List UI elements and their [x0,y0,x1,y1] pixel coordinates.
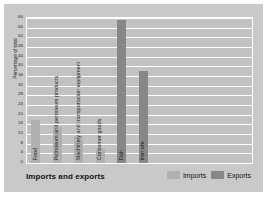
legend-item-imports[interactable]: Imports [167,171,206,179]
y-tick-label: 32 [18,82,23,86]
legend-swatch [211,171,224,179]
y-axis-tick-labels: 04812162024283236404448525660 [4,17,25,164]
chart-panel: Percentage of total 04812162024283236404… [4,4,263,192]
y-tick-label: 4 [21,150,23,154]
plot-area: FoodPetroleum and petroleum productsMach… [26,17,253,164]
y-tick-label: 12 [18,131,23,135]
y-tick-label: 60 [18,15,23,19]
bar-category-label: Iron ore [138,141,143,160]
chart-figure: Percentage of total 04812162024283236404… [0,0,267,203]
y-tick-label: 24 [18,102,23,106]
y-tick-label: 36 [18,73,23,77]
y-tick-label: 20 [18,111,23,115]
legend-label: Imports [183,172,206,179]
y-tick-label: 40 [18,63,23,67]
legend-label: Exports [227,172,251,179]
bar-category-label: Machinery and transportation equipment [73,61,78,160]
y-tick-label: 56 [18,24,23,28]
y-tick-label: 0 [21,160,23,164]
bar-category-label: Petroleum and petroleum products [52,76,57,160]
y-tick-label: 48 [18,44,23,48]
chart-legend: ImportsExports [167,171,251,179]
chart-title: Imports and exports [26,172,105,181]
y-tick-label: 16 [18,121,23,125]
y-tick-label: 28 [18,92,23,96]
bar-group: FoodPetroleum and petroleum productsMach… [27,18,252,163]
y-tick-label: 52 [18,34,23,38]
bar-category-label: Food [30,148,35,160]
legend-swatch [167,171,180,179]
bar-category-label: Fish [116,150,121,160]
bar-category-label: Consumer goods [95,118,100,160]
bar-exports[interactable] [117,20,126,163]
y-tick-label: 44 [18,53,23,57]
legend-item-exports[interactable]: Exports [211,171,251,179]
y-tick-label: 8 [21,140,23,144]
